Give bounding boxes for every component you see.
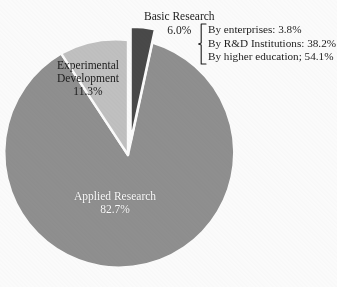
- slice-label-experimental-development-percent: 11.3%: [57, 85, 119, 98]
- curly-brace-icon: [198, 23, 207, 65]
- breakdown-item-rd-institutions: By R&D Institutions: 38.2%: [208, 37, 336, 51]
- slice-label-applied-research-percent: 82.7%: [74, 203, 156, 216]
- slice-label-applied-research-name: Applied Research: [74, 190, 156, 203]
- slice-label-basic-research-name: Basic Research: [144, 10, 215, 23]
- breakdown-list: By enterprises: 3.8% By R&D Institutions…: [207, 23, 336, 65]
- breakdown-item-enterprises: By enterprises: 3.8%: [208, 23, 336, 37]
- basic-research-breakdown-annotation: By enterprises: 3.8% By R&D Institutions…: [198, 23, 336, 65]
- slice-label-experimental-development-line1: Experimental: [57, 59, 119, 72]
- breakdown-item-higher-education: By higher education; 54.1%: [208, 50, 336, 64]
- slice-label-experimental-development-line2: Development: [57, 72, 119, 85]
- pie-chart-figure: Basic Research 6.0% Experimental Develop…: [0, 0, 337, 287]
- slice-label-applied-research: Applied Research 82.7%: [74, 190, 156, 216]
- slice-label-experimental-development: Experimental Development 11.3%: [57, 59, 119, 98]
